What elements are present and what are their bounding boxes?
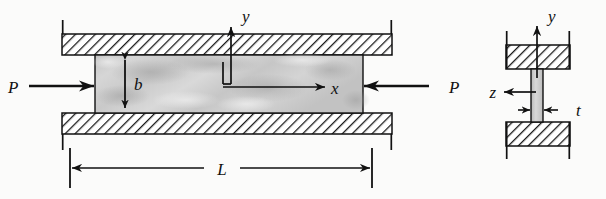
load-right: P [364,78,459,97]
lower-support-hatch [62,113,392,134]
dimension-b-label: b [134,75,143,94]
cs-y-axis-label: y [546,7,556,26]
side-view: P P b y x [7,7,459,188]
cs-lower-support [506,122,570,159]
load-right-label: P [448,78,459,97]
upper-support-hatch [62,34,392,55]
load-left: P [7,78,94,97]
cs-z-axis-label: z [488,83,496,102]
cs-upper-support [506,31,570,69]
dimension-L: L [70,148,372,188]
lower-support [62,113,392,150]
load-left-label: P [7,78,18,97]
dimension-t: t [518,101,582,120]
upper-support [62,20,392,55]
engineering-figure: P P b y x [0,0,606,199]
dimension-t-label: t [576,101,582,120]
y-axis-label: y [240,7,250,26]
dimension-L-label: L [216,160,226,179]
x-axis-label: x [330,79,339,98]
cs-lower-support-hatch [506,122,570,146]
figure-canvas: P P b y x [0,0,606,199]
cs-upper-support-hatch [506,45,570,69]
cross-section-view: y z t [488,7,582,159]
